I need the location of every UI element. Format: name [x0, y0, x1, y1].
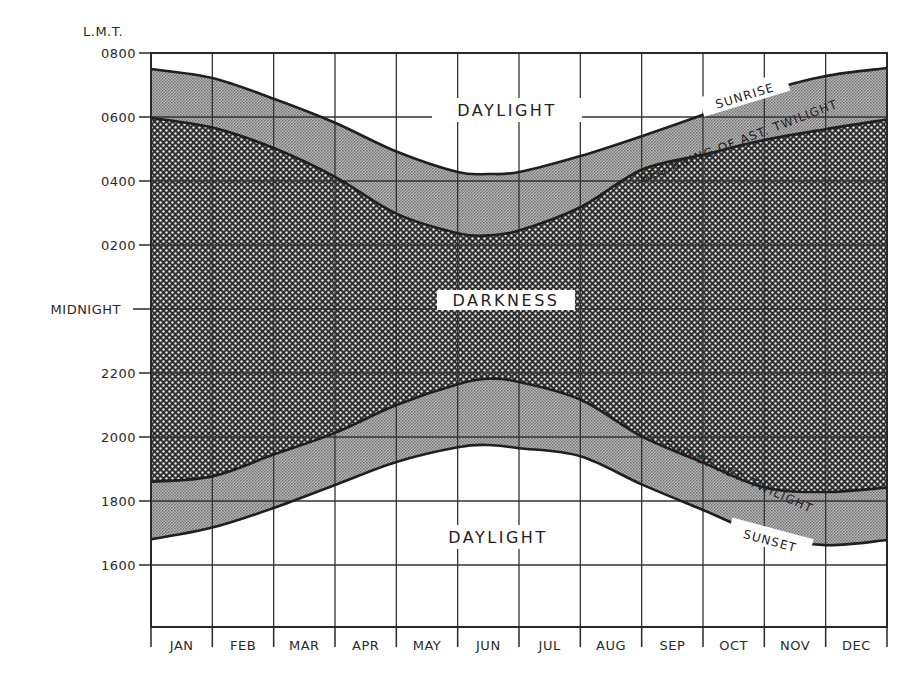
x-tick-label: OCT: [719, 638, 748, 653]
y-tick-label: 1600: [101, 558, 136, 573]
x-tick-label: FEB: [230, 638, 256, 653]
y-axis-title: L.M.T.: [83, 24, 123, 39]
y-tick-label: MIDNIGHT: [51, 302, 121, 317]
x-tick-label: JAN: [169, 638, 194, 653]
x-axis: JANFEBMARAPRMAYJUNJULAUGSEPOCTNOVDEC: [151, 627, 887, 653]
chart: 0800060004000200MIDNIGHT2200200018001600…: [0, 0, 908, 673]
daylight-bottom-label: DAYLIGHT: [448, 528, 547, 547]
y-tick-label: 2000: [101, 430, 136, 445]
y-tick-label: 0200: [101, 238, 136, 253]
y-tick-label: 1800: [101, 494, 136, 509]
daylight-top-label: DAYLIGHT: [457, 101, 556, 120]
y-tick-label: 0800: [101, 46, 136, 61]
y-tick-label: 0400: [101, 174, 136, 189]
x-tick-label: AUG: [596, 638, 626, 653]
x-tick-label: MAY: [413, 638, 442, 653]
x-tick-label: APR: [352, 638, 379, 653]
x-tick-label: MAR: [289, 638, 320, 653]
y-axis: 0800060004000200MIDNIGHT2200200018001600: [51, 46, 151, 573]
y-tick-label: 0600: [101, 110, 136, 125]
x-tick-label: SEP: [659, 638, 685, 653]
x-tick-label: NOV: [780, 638, 810, 653]
x-tick-label: JUL: [538, 638, 561, 653]
y-tick-label: 2200: [101, 366, 136, 381]
x-tick-label: JUN: [475, 638, 501, 653]
darkness-label: DARKNESS: [453, 291, 560, 310]
x-tick-label: DEC: [842, 638, 871, 653]
